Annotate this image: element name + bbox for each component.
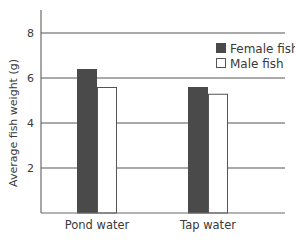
category-labels: Pond waterTap water bbox=[65, 218, 237, 232]
bar-chart: 2468 Average fish weight (g) Pond waterT… bbox=[0, 0, 295, 243]
bar-female bbox=[189, 88, 208, 214]
y-tick-label: 2 bbox=[27, 162, 34, 175]
legend-label: Female fish bbox=[230, 42, 295, 56]
y-tick-label: 4 bbox=[27, 117, 34, 130]
y-tick-label: 8 bbox=[27, 27, 34, 40]
y-tick-labels: 2468 bbox=[27, 27, 34, 175]
legend-swatch-female bbox=[217, 44, 226, 53]
y-tick-label: 6 bbox=[27, 72, 34, 85]
legend: Female fishMale fish bbox=[217, 42, 296, 71]
bar-female bbox=[78, 70, 97, 214]
legend-swatch-male bbox=[217, 59, 226, 68]
bar-male bbox=[209, 94, 228, 213]
category-label: Tap water bbox=[179, 218, 236, 232]
category-label: Pond water bbox=[65, 218, 130, 232]
legend-label: Male fish bbox=[230, 57, 284, 71]
bar-male bbox=[98, 88, 117, 214]
bars bbox=[78, 70, 228, 214]
y-axis-title: Average fish weight (g) bbox=[7, 59, 20, 187]
